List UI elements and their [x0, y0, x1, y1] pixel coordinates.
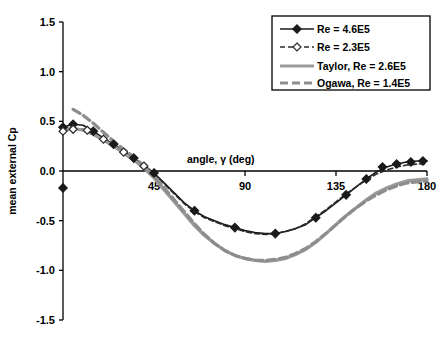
legend-label-1: Re = 2.3E5 [317, 41, 370, 53]
y-tick-label: 1.0 [40, 66, 55, 78]
y-tick-label: -1.0 [36, 264, 55, 276]
legend-label-2: Taylor, Re = 2.6E5 [317, 60, 406, 72]
y-tick-label: 1.5 [40, 16, 55, 28]
legend-label-3: Ogawa, Re = 1.4E5 [317, 77, 410, 89]
y-axis-title: mean external Cp [6, 127, 18, 215]
y-tick-label: 0.5 [40, 115, 55, 127]
chart-plot: -1.5-1.0-0.50.00.51.01.5mean external Cp… [0, 0, 440, 339]
y-tick-label: 0.0 [40, 165, 55, 177]
x-axis-title: angle, γ (deg) [187, 153, 255, 165]
data-point-marker [231, 223, 239, 231]
y-tick-label: -0.5 [36, 215, 55, 227]
chart-container: -1.5-1.0-0.50.00.51.01.5mean external Cp… [0, 0, 440, 339]
x-tick-label: 135 [327, 180, 345, 192]
data-point-marker [271, 229, 279, 237]
series-line-2 [63, 128, 427, 261]
y-tick-label: -1.5 [36, 314, 55, 326]
series-line-0 [63, 124, 427, 233]
legend-label-0: Re = 4.6E5 [317, 23, 370, 35]
data-point-marker [59, 184, 67, 192]
x-tick-label: 90 [239, 180, 251, 192]
